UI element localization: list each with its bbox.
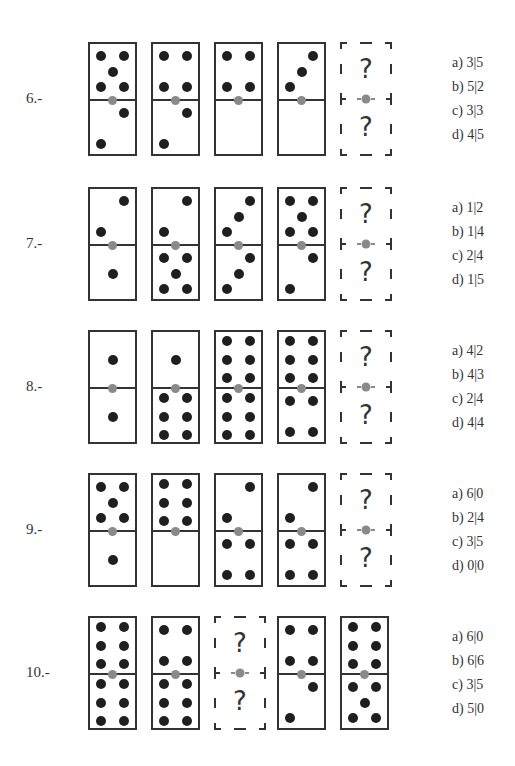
pip-dot-icon [222,539,232,549]
domino-tile-4-0 [214,42,263,156]
answer-option-d[interactable]: d) 5|0 [452,697,484,721]
answer-option-c[interactable]: c) 2|4 [452,244,484,268]
answer-options: a) 4|2b) 4|3c) 2|4d) 4|4 [452,339,484,435]
domino-bottom-half-one [90,389,135,444]
pip-dot-icon [96,513,106,523]
pip-dot-icon [159,139,169,149]
pip-dot-icon [119,641,129,651]
pip-dot-icon [222,513,232,523]
pip-dot-icon [96,227,106,237]
answer-option-b[interactable]: b) 6|6 [452,649,484,673]
answer-option-b[interactable]: b) 5|2 [452,75,484,99]
pip-dot-icon [119,51,129,61]
answer-option-b[interactable]: b) 1|4 [452,220,484,244]
pip-dot-icon [285,284,295,294]
domino-tile-6-0 [151,473,200,587]
domino-center-pin-icon [234,527,243,536]
pip-dot-icon [182,284,192,294]
pip-dot-icon [308,482,318,492]
pip-dot-icon [159,227,169,237]
domino-top-half-four [279,618,324,673]
pip-dot-icon [297,67,307,77]
pip-dot-icon [308,355,318,365]
pip-dot-icon [108,498,118,508]
answer-option-c[interactable]: c) 3|3 [452,99,484,123]
answer-option-a[interactable]: a) 4|2 [452,339,484,363]
domino-top-half-two [153,189,198,244]
domino-top-half-five [279,189,324,244]
domino-tile-2-1 [88,187,137,301]
question-mark-bottom: ? [340,257,392,287]
answer-option-b[interactable]: b) 2|4 [452,506,484,530]
pip-dot-icon [119,482,129,492]
pip-dot-icon [159,253,169,263]
answer-option-c[interactable]: c) 3|5 [452,530,484,554]
domino-bottom-half-four [279,532,324,587]
domino-tile-1-1 [88,330,137,444]
domino-top-half-three [279,44,324,99]
question-mark-bottom: ? [340,112,392,142]
missing-domino-placeholder: ?? [214,616,266,730]
pip-dot-icon [371,659,381,669]
question-number: 10.- [26,664,50,681]
pip-dot-icon [222,355,232,365]
question-mark-top: ? [340,485,392,515]
question-number: 7.- [26,235,42,252]
domino-tile-2-4 [277,473,326,587]
domino-tile-5-2 [88,42,137,156]
answer-option-a[interactable]: a) 1|2 [452,196,484,220]
pip-dot-icon [119,196,129,206]
pip-dot-icon [108,269,118,279]
missing-domino-placeholder: ?? [340,473,392,587]
domino-bottom-half-five [153,246,198,301]
pip-dot-icon [285,656,295,666]
pip-dot-icon [96,139,106,149]
domino-center-pin-icon [171,96,180,105]
pip-dot-icon [245,355,255,365]
domino-bottom-half-two [279,246,324,301]
pip-dot-icon [119,622,129,632]
pip-dot-icon [245,482,255,492]
pip-dot-icon [159,82,169,92]
answer-option-d[interactable]: d) 1|5 [452,268,484,292]
pip-dot-icon [308,373,318,383]
missing-domino-placeholder: ?? [340,42,392,156]
answer-option-c[interactable]: c) 2|4 [452,387,484,411]
domino-bottom-half-five [342,675,387,730]
domino-top-half-six [153,475,198,530]
pip-dot-icon [182,108,192,118]
answer-option-d[interactable]: d) 4|5 [452,123,484,147]
pip-dot-icon [285,396,295,406]
answer-option-d[interactable]: d) 0|0 [452,554,484,578]
pip-dot-icon [96,641,106,651]
pip-dot-icon [285,713,295,723]
pip-dot-icon [96,659,106,669]
pip-dot-icon [348,713,358,723]
pip-dot-icon [308,227,318,237]
answer-option-b[interactable]: b) 4|3 [452,363,484,387]
pip-dot-icon [159,479,169,489]
domino-tile-1-6 [151,330,200,444]
pip-dot-icon [245,539,255,549]
missing-domino-placeholder: ?? [340,187,392,301]
pip-dot-icon [297,212,307,222]
pip-dot-icon [182,679,192,689]
answer-option-a[interactable]: a) 6|0 [452,625,484,649]
pip-dot-icon [222,570,232,580]
pip-dot-icon [308,396,318,406]
pip-dot-icon [96,82,106,92]
pip-dot-icon [222,336,232,346]
pip-dot-icon [182,51,192,61]
domino-top-half-two [216,475,261,530]
answer-option-d[interactable]: d) 4|4 [452,411,484,435]
pip-dot-icon [96,482,106,492]
domino-tile-6-4 [277,330,326,444]
domino-top-half-six [279,332,324,387]
domino-top-half-one [90,332,135,387]
domino-center-pin-icon [297,241,306,250]
answer-option-c[interactable]: c) 3|5 [452,673,484,697]
answer-option-a[interactable]: a) 6|0 [452,482,484,506]
domino-bottom-half-six [216,389,261,444]
answer-option-a[interactable]: a) 3|5 [452,51,484,75]
domino-tile-6-6 [214,330,263,444]
